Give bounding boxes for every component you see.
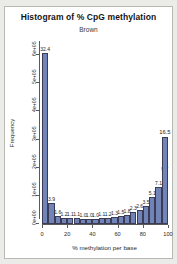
y-axis-line: [39, 41, 40, 219]
x-tick-mark: [143, 225, 144, 228]
chart-subtitle: Brown: [5, 26, 172, 33]
chart-title: Histogram of % CpG methylation: [5, 12, 172, 22]
x-tick-mark: [42, 225, 43, 228]
x-tick-label: 0: [40, 231, 43, 237]
x-tick-label: 80: [140, 231, 146, 237]
histogram-window: Histogram of % CpG methylation Brown Fre…: [0, 0, 177, 264]
plot-frame: Histogram of % CpG methylation Brown Fre…: [4, 6, 173, 259]
y-axis-label: Frequency: [9, 118, 15, 146]
bar: [162, 137, 168, 224]
y-tick-label: 6e+05: [31, 55, 37, 56]
y-tick-label: 1e+05: [31, 196, 37, 197]
y-tick-label: 3e+05: [31, 140, 37, 141]
x-axis-line: [42, 224, 168, 225]
bar-value-label: 3.9: [48, 196, 55, 202]
x-tick-mark: [168, 225, 169, 228]
bar-value-label: 32.4: [40, 46, 50, 52]
bar-series: 32.43.91.61.21.11.11.01.01.01.11.21.31.5…: [42, 41, 168, 224]
x-axis-label: % methylation per base: [39, 244, 170, 251]
plot-area: 0e+001e+052e+053e+054e+055e+056e+05 0204…: [39, 35, 170, 225]
bar-value-label-max: 16.5: [159, 129, 170, 135]
y-tick-label: 0e+00: [31, 224, 37, 225]
x-tick-label: 60: [114, 231, 120, 237]
x-tick-label: 100: [163, 231, 172, 237]
y-tick-label: 5e+05: [31, 83, 37, 84]
y-tick-label: 4e+05: [31, 111, 37, 112]
x-tick-mark: [92, 225, 93, 228]
x-tick-mark: [67, 225, 68, 228]
y-tick-label: 2e+05: [31, 168, 37, 169]
x-tick-label: 20: [64, 231, 70, 237]
x-tick-label: 40: [89, 231, 95, 237]
x-tick-mark: [118, 225, 119, 228]
